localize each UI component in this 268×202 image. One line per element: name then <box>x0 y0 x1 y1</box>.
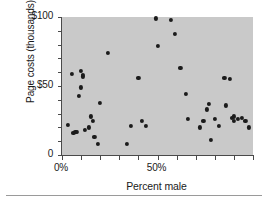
y-axis-tick <box>58 17 62 18</box>
data-point <box>224 103 228 107</box>
data-point <box>205 107 209 111</box>
data-point <box>207 102 211 106</box>
plot-area <box>61 17 253 156</box>
data-point <box>136 76 140 80</box>
x-axis-tick-label-50: 50% <box>137 162 177 173</box>
x-axis-tick <box>119 155 120 160</box>
x-axis-tick <box>158 155 159 160</box>
x-axis-tick <box>215 155 216 160</box>
scatter-plot-figure: Page costs (thousands) $100 $50 0 0% 50%… <box>0 0 268 202</box>
y-axis-tick <box>58 31 62 32</box>
data-point <box>98 100 102 104</box>
data-point <box>87 125 91 129</box>
data-point <box>77 94 81 98</box>
data-point <box>92 135 96 139</box>
data-point <box>144 124 148 128</box>
x-axis-tick <box>138 155 139 160</box>
footer-divider <box>6 195 262 196</box>
data-point <box>184 92 188 96</box>
data-point <box>169 18 173 22</box>
data-point <box>186 117 190 121</box>
data-point <box>197 125 201 129</box>
data-point <box>75 129 79 133</box>
data-point <box>222 76 226 80</box>
data-point <box>81 74 85 78</box>
y-axis-tick <box>58 141 62 142</box>
x-axis-tick <box>253 155 254 160</box>
data-point <box>155 44 159 48</box>
data-point <box>178 66 182 70</box>
y-axis-tick <box>58 72 62 73</box>
data-point <box>201 118 205 122</box>
x-axis-tick-label-0: 0% <box>41 162 81 173</box>
data-point <box>66 123 70 127</box>
data-point <box>96 142 100 146</box>
data-point <box>125 142 129 146</box>
data-point <box>217 124 221 128</box>
data-point <box>90 118 94 122</box>
y-axis-tick <box>58 45 62 46</box>
y-axis-tick <box>58 58 62 59</box>
x-axis-tick <box>196 155 197 160</box>
data-point <box>69 71 73 75</box>
data-point <box>228 77 232 81</box>
data-point <box>209 138 213 142</box>
data-point <box>173 31 177 35</box>
data-point <box>213 117 217 121</box>
x-axis-tick <box>234 155 235 160</box>
x-axis-tick <box>100 155 101 160</box>
data-point <box>129 124 133 128</box>
data-point <box>106 51 110 55</box>
y-axis-tick <box>58 86 62 87</box>
data-point <box>243 118 247 122</box>
x-axis-title: Percent male <box>61 180 252 192</box>
y-axis-tick-label-100: $100 <box>0 10 53 21</box>
x-axis-tick <box>81 155 82 160</box>
data-point <box>153 16 157 20</box>
x-axis-tick <box>62 155 63 160</box>
y-axis-tick-label-0: 0 <box>0 148 53 159</box>
y-axis-tick <box>58 127 62 128</box>
data-point <box>140 118 144 122</box>
data-point <box>247 125 251 129</box>
y-axis-tick <box>58 100 62 101</box>
y-axis-tick <box>58 114 62 115</box>
x-axis-tick <box>177 155 178 160</box>
data-point <box>79 85 83 89</box>
y-axis-tick-label-50: $50 <box>0 79 53 90</box>
